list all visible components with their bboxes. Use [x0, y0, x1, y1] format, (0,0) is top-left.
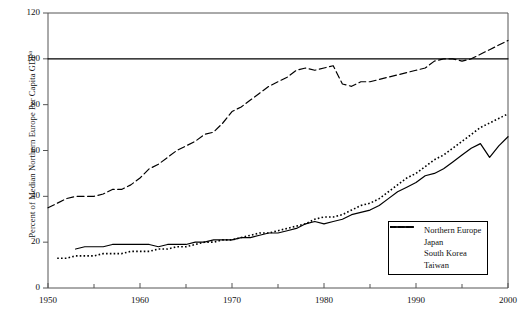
legend-item: Taiwan: [393, 260, 481, 272]
chart-legend: Northern EuropeJapanSouth KoreaTaiwan: [388, 221, 488, 275]
legend-label: South Korea: [424, 248, 467, 260]
legend-label: Japan: [424, 237, 443, 249]
legend-label: Northern Europe: [424, 225, 481, 237]
legend-item: Japan: [393, 237, 481, 249]
legend-label: Taiwan: [424, 260, 449, 272]
legend-swatch-solid: [393, 249, 419, 259]
legend-swatch-dashed: [393, 237, 419, 247]
chart-figure: Percent of Median Northern Europe Per Ca…: [0, 0, 527, 314]
series-line-japan: [48, 41, 508, 208]
legend-item: South Korea: [393, 248, 481, 260]
legend-swatch-dotted: [393, 260, 419, 270]
